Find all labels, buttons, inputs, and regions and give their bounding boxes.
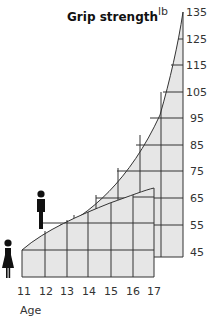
svg-text:13: 13 [60, 285, 74, 298]
svg-text:12: 12 [39, 285, 53, 298]
female-figure-icon [2, 239, 14, 278]
svg-text:45: 45 [190, 246, 204, 259]
svg-text:135: 135 [186, 6, 207, 19]
svg-text:105: 105 [186, 86, 207, 99]
svg-text:11: 11 [17, 285, 31, 298]
svg-text:95: 95 [190, 112, 204, 125]
svg-text:65: 65 [190, 192, 204, 205]
x-axis-label: Age [20, 304, 42, 317]
x-axis: 11 12 13 14 15 16 17 Age [17, 285, 161, 317]
svg-text:14: 14 [82, 285, 96, 298]
chart-title: Grip strength [67, 10, 158, 24]
svg-text:15: 15 [104, 285, 118, 298]
grip-strength-chart: Grip strength lb [0, 0, 211, 328]
svg-text:75: 75 [190, 165, 204, 178]
svg-text:55: 55 [190, 219, 204, 232]
svg-text:17: 17 [147, 285, 161, 298]
svg-text:125: 125 [186, 33, 207, 46]
svg-text:85: 85 [190, 139, 204, 152]
svg-text:16: 16 [126, 285, 140, 298]
svg-text:115: 115 [186, 59, 207, 72]
y-axis: 135 125 115 105 95 85 75 65 55 45 [186, 6, 207, 259]
y-axis-unit: lb [158, 5, 168, 18]
